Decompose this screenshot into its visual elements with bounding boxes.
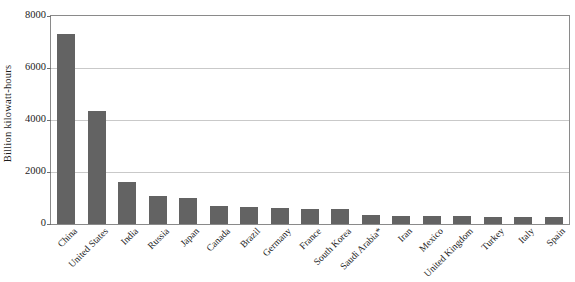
y-tick-label: 2000 — [12, 166, 46, 176]
bar — [453, 216, 471, 224]
bar — [57, 34, 75, 224]
bar — [484, 217, 502, 224]
bar — [149, 196, 167, 224]
plot-area — [50, 15, 570, 225]
bar — [240, 207, 258, 224]
bar — [514, 217, 532, 224]
bar — [210, 206, 228, 224]
bar — [545, 217, 563, 224]
bar — [423, 216, 441, 224]
y-tick-label: 4000 — [12, 114, 46, 124]
bar — [392, 216, 410, 224]
y-tick-label: 0 — [12, 218, 46, 228]
bar-series — [51, 16, 569, 224]
bar — [362, 215, 380, 224]
bar — [331, 209, 349, 224]
y-tick-label: 8000 — [12, 10, 46, 20]
bar — [271, 208, 289, 224]
bar — [301, 209, 319, 224]
y-tick-label: 6000 — [12, 62, 46, 72]
bar — [179, 198, 197, 224]
bar — [118, 182, 136, 224]
bar-chart-figure: Billion kilowatt-hours 02000400060008000… — [0, 0, 575, 282]
y-axis-tick-labels: 02000400060008000 — [12, 0, 46, 232]
x-axis-category-labels: ChinaUnited StatesIndiaRussiaJapanCanada… — [50, 224, 568, 272]
bar — [88, 111, 106, 224]
